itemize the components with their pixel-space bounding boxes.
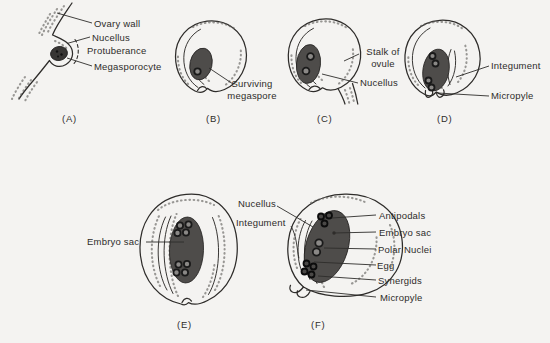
stage-letter-e: (E): [177, 319, 192, 331]
label-nucellus-c: Nucellus: [360, 77, 398, 89]
surviving-megaspore-cell: [194, 68, 200, 74]
label-surviving-megaspore: Surviving megaspore: [226, 78, 278, 102]
nucellus-dark-region: [420, 47, 453, 93]
ovule-development-figure: Ovary wall Nucellus Protuberance Megaspo…: [0, 0, 550, 343]
label-antipodals: Antipodals: [379, 210, 425, 222]
stage-a-drawing: [12, 3, 92, 101]
micropyle-lobes: [290, 285, 310, 297]
label-nucellus-a: Nucellus: [92, 32, 130, 44]
stage-c-drawing: [288, 19, 360, 104]
label-ovary-wall: Ovary wall: [94, 18, 140, 30]
protuberance-bracket: [74, 40, 78, 64]
label-megasporocyte: Megasporocyte: [94, 61, 162, 73]
stage-letter-b: (B): [206, 113, 221, 125]
label-nucellus-f: Nucellus: [238, 198, 276, 210]
stage-letter-c: (C): [317, 113, 333, 125]
stage-letter-d: (D): [437, 113, 453, 125]
label-polar-nuclei: Polar Nuclei: [378, 244, 432, 256]
label-embryo-sac-e: Embryo sac: [87, 236, 139, 248]
label-integument-f: Integument: [236, 217, 286, 229]
stage-e-drawing: [140, 194, 237, 305]
figure-artwork: [0, 0, 550, 343]
nucellus-dark-region: [295, 43, 323, 84]
label-protuberance: Protuberance: [87, 45, 146, 57]
label-synergids: Synergids: [378, 275, 422, 287]
stage-d-drawing: [405, 20, 489, 97]
label-egg: Egg: [377, 260, 395, 272]
stage-letter-a: (A): [62, 113, 77, 125]
ovule-stalk: [338, 84, 358, 105]
nucellus-dark-region: [187, 46, 215, 82]
label-stalk-of-ovule: Stalk of ovule: [358, 46, 408, 70]
label-integument-d: Integument: [491, 60, 541, 72]
label-micropyle-d: Micropyle: [491, 90, 533, 102]
label-embryo-sac-f: Embryo sac: [379, 227, 431, 239]
label-micropyle-f: Micropyle: [380, 292, 422, 304]
stage-letter-f: (F): [311, 319, 326, 331]
